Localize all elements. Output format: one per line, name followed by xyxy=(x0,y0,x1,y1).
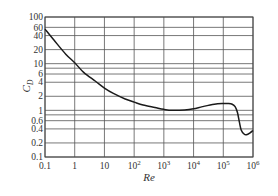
x-tick-label: 103 xyxy=(157,159,171,171)
x-tick-label: 0.1 xyxy=(39,161,51,171)
x-tick-label: 105 xyxy=(217,159,231,171)
x-tick-label: 10 xyxy=(100,161,110,171)
y-tick-label: 10 xyxy=(34,59,44,69)
y-tick-label: 0.4 xyxy=(31,124,43,134)
y-tick-label: 20 xyxy=(34,45,44,55)
x-tick-label: 104 xyxy=(187,159,201,171)
y-tick-label: 0.1 xyxy=(31,152,43,162)
plot-frame xyxy=(45,17,253,157)
x-tick-label: 102 xyxy=(128,159,142,171)
y-tick-label: 4 xyxy=(38,77,43,87)
x-axis-label: Re xyxy=(142,171,155,183)
y-tick-label: 0.2 xyxy=(31,138,43,148)
x-tick-label: 1 xyxy=(72,161,77,171)
y-axis-label: CD xyxy=(20,79,35,92)
x-tick-labels: 0.1110102103104105106 xyxy=(39,159,260,171)
horizontal-gridlines xyxy=(45,17,253,157)
y-tick-label: 1 xyxy=(38,106,43,116)
y-tick-label: 2 xyxy=(38,91,43,101)
y-axis-label-subscript: D xyxy=(26,79,35,86)
y-tick-label: 100 xyxy=(29,12,44,22)
y-tick-label: 40 xyxy=(34,31,44,41)
drag-coefficient-chart: 0.1110102103104105106 1006040201064210.6… xyxy=(0,0,278,196)
x-tick-label: 106 xyxy=(247,159,261,171)
vertical-gridlines xyxy=(45,17,253,157)
